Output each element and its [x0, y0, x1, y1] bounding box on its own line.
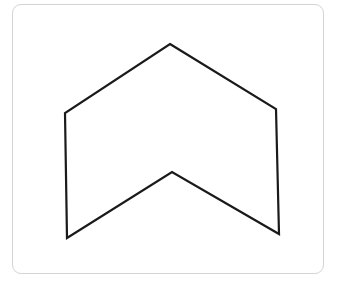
- diagram-canvas: [0, 0, 337, 286]
- chevron-hexagon-shape: [65, 44, 279, 238]
